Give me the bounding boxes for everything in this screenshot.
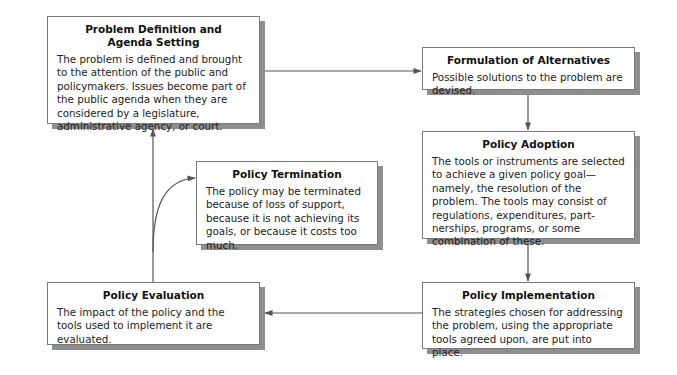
stage-description: Possible solutions to the problem are de… xyxy=(432,71,625,98)
stage-evaluation: Policy Evaluation The impact of the poli… xyxy=(47,282,260,345)
stage-termination: Policy Termination The policy may be ter… xyxy=(196,161,378,245)
stage-title: Formulation of Alternatives xyxy=(432,54,625,67)
stage-description: The strategies chosen for addressing the… xyxy=(432,306,625,360)
stage-implementation: Policy Implementation The strategies cho… xyxy=(422,282,635,349)
title-line-1: Problem Definition and xyxy=(57,23,250,36)
arrow-evaluation-to-termination xyxy=(153,178,195,252)
stage-title: Policy Termination xyxy=(206,168,368,181)
stage-title: Policy Implementation xyxy=(432,289,625,302)
stage-description: The tools or instruments are selected to… xyxy=(432,155,625,249)
stage-adoption: Policy Adoption The tools or instruments… xyxy=(422,131,635,239)
title-line-2: Agenda Setting xyxy=(57,36,250,49)
stage-title: Policy Evaluation xyxy=(57,289,250,302)
stage-title: Policy Adoption xyxy=(432,138,625,151)
stage-problem-definition: Problem Definition and Agenda Setting Th… xyxy=(47,16,260,124)
stage-title: Problem Definition and Agenda Setting xyxy=(57,23,250,49)
stage-formulation: Formulation of Alternatives Possible sol… xyxy=(422,47,635,90)
stage-description: The problem is defined and brought to th… xyxy=(57,53,250,133)
stage-description: The policy may be terminated because of … xyxy=(206,185,368,252)
stage-description: The impact of the policy and the tools u… xyxy=(57,306,250,346)
